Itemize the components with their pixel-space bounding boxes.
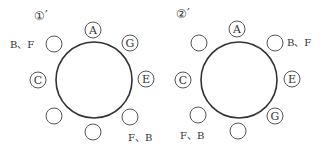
seat-label: G: [271, 110, 280, 123]
seat-label: C: [34, 74, 42, 87]
seat-label: E: [288, 73, 296, 86]
seat-empty: [191, 35, 207, 51]
diagram-label: ②′: [176, 7, 190, 21]
seat-empty: [46, 36, 62, 52]
seat-empty: [267, 35, 283, 51]
seat-c: C: [175, 72, 191, 88]
seat-g: G: [122, 35, 138, 51]
diagram-label: ①′: [34, 9, 48, 23]
seat-empty: [122, 109, 138, 125]
seat-label: A: [232, 23, 242, 36]
round-table: [201, 42, 277, 118]
seat-annotation: B、F: [10, 39, 34, 50]
seating-diagrams: ①′AGECB、FF、B②′AEGCB、FF、B: [0, 0, 324, 150]
seat-e: E: [138, 71, 154, 87]
seat-annotation: F、B: [128, 132, 152, 143]
seat-e: E: [284, 71, 300, 87]
round-table: [56, 42, 132, 118]
seat-a: A: [229, 21, 245, 37]
seat-empty: [190, 107, 206, 123]
diagram-2: ②′AEGCB、FF、B: [175, 7, 311, 141]
seat-label: E: [142, 73, 150, 86]
seat-label: C: [179, 74, 187, 87]
seat-g: G: [267, 108, 283, 124]
seat-empty: [85, 124, 101, 140]
seat-empty: [230, 123, 246, 139]
seat-a: A: [85, 22, 101, 38]
seat-label: G: [126, 37, 135, 50]
seat-c: C: [30, 72, 46, 88]
seat-annotation: B、F: [287, 37, 311, 48]
seat-annotation: F、B: [180, 130, 204, 141]
seat-label: A: [88, 24, 98, 37]
seat-empty: [46, 108, 62, 124]
diagram-1: ①′AGECB、FF、B: [10, 9, 154, 143]
